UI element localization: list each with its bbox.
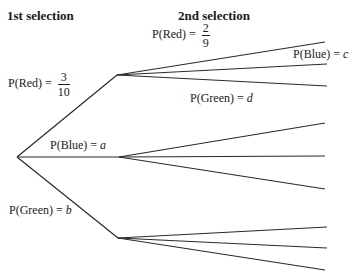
label-text: P(Blue) =	[293, 47, 343, 61]
branch-blue-red	[119, 123, 325, 157]
numerator: 3	[58, 71, 70, 85]
branch-green	[17, 157, 118, 238]
denominator: 10	[58, 85, 70, 98]
variable: c	[343, 47, 348, 61]
fraction: 29	[202, 22, 210, 49]
fraction: 310	[58, 71, 70, 98]
numerator: 2	[202, 22, 210, 36]
label-text: P(Red) =	[8, 76, 55, 90]
variable: b	[66, 203, 72, 217]
label-second-green: P(Green) = d	[190, 91, 253, 105]
denominator: 9	[202, 36, 210, 49]
branch-blue-blue	[119, 156, 325, 157]
branch-blue-green	[119, 157, 325, 189]
variable: a	[100, 138, 106, 152]
branch-green-red	[118, 227, 327, 238]
label-first-blue: P(Blue) = a	[50, 138, 106, 152]
label-first-green: P(Green) = b	[9, 203, 72, 217]
label-text: P(Red) =	[152, 27, 199, 41]
label-first-red: P(Red) = 310	[8, 71, 70, 98]
branch-red-green	[117, 75, 327, 86]
label-second-blue: P(Blue) = c	[293, 47, 348, 61]
label-text: P(Green) =	[190, 91, 247, 105]
variable: d	[247, 91, 253, 105]
label-text: P(Blue) =	[50, 138, 100, 152]
label-second-red: P(Red) = 29	[152, 22, 210, 49]
label-text: P(Green) =	[9, 203, 66, 217]
